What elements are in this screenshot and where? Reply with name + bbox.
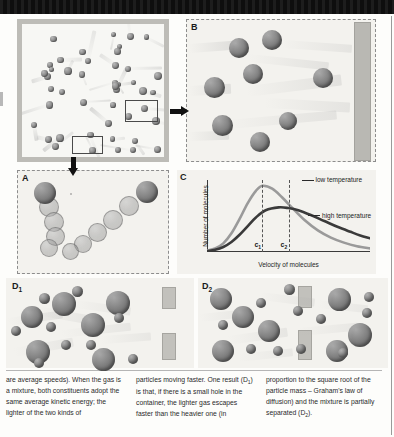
- gas-particle: [154, 72, 162, 80]
- collision-sphere: [40, 239, 58, 257]
- wall-block-lower-d1: [162, 333, 176, 360]
- collision-sphere: [119, 196, 139, 216]
- chart-plot-area: c1 c2 Number of molecules Velocity of mo…: [207, 180, 370, 252]
- collision-sphere: [70, 193, 72, 195]
- caption-column-3: proportion to the square root of the par…: [266, 374, 386, 434]
- gas-sphere: [316, 314, 326, 324]
- gas-particle: [80, 99, 87, 106]
- collision-sphere: [103, 210, 123, 230]
- gas-container-panel: [17, 19, 169, 162]
- gas-particle: [79, 71, 85, 77]
- gas-sphere: [212, 340, 234, 362]
- gas-sphere: [212, 115, 233, 136]
- gas-particle: [112, 82, 120, 90]
- gas-particle: [111, 32, 116, 37]
- right-margin-rule: [391, 16, 392, 435]
- gas-particle: [114, 48, 121, 55]
- legend-low-text: low temperature: [316, 176, 363, 183]
- particle-trail: [86, 30, 97, 61]
- gas-sphere: [210, 288, 232, 310]
- caption-text-1: are average speeds). When the gas is a m…: [6, 374, 126, 418]
- gas-sphere: [232, 306, 254, 328]
- gas-particle: [79, 49, 86, 56]
- gas-sphere: [229, 38, 249, 58]
- callout-box-bottom[interactable]: [72, 136, 103, 154]
- particle-trail: [128, 67, 162, 71]
- caption-text-3: proportion to the square root of the par…: [266, 374, 386, 419]
- gas-sphere: [61, 340, 71, 350]
- panel-d2-separated-mixture: D2: [198, 278, 388, 368]
- gas-particle: [131, 80, 137, 86]
- gas-particle: [50, 36, 56, 42]
- gas-particle: [144, 34, 150, 40]
- gas-particle: [110, 136, 116, 142]
- panel-b-label: B: [191, 22, 198, 32]
- gas-sphere: [284, 284, 295, 295]
- collision-sphere: [62, 243, 79, 260]
- legend-low-temperature: low temperature: [302, 176, 363, 183]
- gas-sphere: [273, 346, 283, 356]
- caption-column-2: particles moving faster. One result (D1)…: [136, 374, 256, 434]
- container-wall: [354, 22, 371, 161]
- gas-sphere: [328, 288, 351, 311]
- caption-column-1: are average speeds). When the gas is a m…: [6, 374, 126, 434]
- gas-particle: [112, 62, 119, 69]
- y-axis-label: Number of molecules: [202, 185, 209, 246]
- panel-c-label: C: [180, 172, 187, 182]
- panel-d1-label: D1: [12, 281, 22, 293]
- gas-particle: [41, 70, 48, 77]
- c1-tick-label: c1: [254, 241, 261, 250]
- legend-low-leader-icon: [302, 180, 314, 181]
- motion-trail: [101, 333, 151, 344]
- c2-tick-label: c2: [281, 241, 288, 250]
- gas-sphere: [256, 298, 266, 308]
- gas-sphere: [86, 340, 96, 350]
- gas-sphere: [313, 68, 333, 88]
- gas-particle: [57, 57, 63, 63]
- panel-d2-label: D2: [202, 281, 212, 293]
- gas-sphere: [296, 344, 306, 354]
- motion-trail: [265, 98, 350, 112]
- gas-particle: [59, 89, 65, 95]
- panel-a-collision-detail: A: [17, 170, 169, 274]
- gas-sphere: [34, 358, 44, 368]
- gas-sphere: [21, 306, 43, 328]
- gas-particle: [48, 86, 54, 92]
- gas-particle: [115, 147, 121, 153]
- gas-particle: [46, 101, 54, 109]
- gas-sphere: [262, 30, 282, 50]
- particle-trail: [83, 100, 111, 104]
- x-axis-label: Velocity of molecules: [258, 261, 319, 268]
- caption-text-2: particles moving faster. One result (D1)…: [136, 374, 256, 419]
- callout-box-right[interactable]: [125, 100, 158, 122]
- gas-particle: [130, 147, 137, 154]
- gas-particle: [85, 58, 91, 64]
- gas-sphere: [338, 348, 348, 358]
- panel-a-label: A: [22, 173, 29, 183]
- gas-sphere: [348, 323, 372, 347]
- gas-particle: [110, 102, 116, 108]
- arrow-to-panel-a: [68, 157, 79, 178]
- gas-particle: [125, 66, 131, 72]
- gas-sphere: [11, 326, 21, 336]
- gas-particle: [154, 146, 161, 153]
- legend-high-temperature: high temperature: [308, 212, 371, 219]
- figure-caption: are average speeds). When the gas is a m…: [6, 374, 388, 434]
- wall-block-upper-d1: [162, 287, 176, 309]
- gas-sphere: [218, 320, 228, 330]
- gas-sphere: [293, 306, 303, 316]
- left-edge-mark: [0, 92, 3, 106]
- gas-sphere: [128, 354, 138, 364]
- gas-sphere: [279, 112, 297, 130]
- gas-particle: [56, 134, 64, 142]
- panel-b-wall-collision: B: [186, 19, 376, 162]
- gas-sphere: [39, 293, 50, 304]
- gas-sphere: [250, 132, 270, 152]
- gas-particle: [49, 67, 55, 73]
- gas-sphere: [362, 308, 372, 318]
- gas-sphere: [52, 292, 76, 316]
- gas-particle: [150, 90, 155, 95]
- gas-particle: [64, 67, 72, 75]
- gas-particle: [127, 33, 134, 40]
- gas-sphere: [81, 313, 105, 337]
